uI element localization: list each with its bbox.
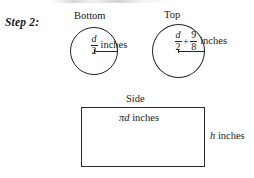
side-rectangle-caption: Side [126,93,145,104]
side-height-unit: inches [215,130,244,141]
bottom-unit-label: inches [101,40,128,51]
fraction-denominator: 8 [190,42,197,53]
plus-operator: + [182,37,190,47]
fraction-d-over-2: d 2 [91,34,98,56]
top-circle-caption: Top [164,9,180,20]
side-width-label: πd inches [119,112,159,123]
step-label: Step 2: [5,16,39,28]
side-height-label: h inches [210,130,245,141]
top-unit-label: inches [200,36,227,47]
cropped-edge-artifact [52,0,172,3]
fraction-denominator: 2 [175,42,182,53]
side-width-unit: inches [130,112,159,123]
fraction-9-over-8: 9 8 [190,30,197,52]
fraction-numerator: d [175,30,182,41]
figure-canvas: Step 2: Bottom d 2 inches Top d 2 + 9 8 … [0,0,254,178]
bottom-circle-caption: Bottom [74,10,106,21]
fraction-numerator: 9 [190,30,197,41]
top-circle-measurement: d 2 + 9 8 inches [174,30,227,52]
fraction-numerator: d [91,34,98,45]
fraction-d-over-2: d 2 [175,30,182,52]
side-width-variable: πd [119,112,130,123]
bottom-circle-measurement: d 2 inches [90,34,127,56]
fraction-denominator: 2 [91,46,98,57]
